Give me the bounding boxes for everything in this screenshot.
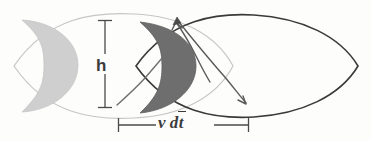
distance-label-v: v (158, 113, 166, 132)
diagram-canvas (0, 0, 371, 141)
distance-label: v dt (158, 114, 184, 131)
distance-label-d: d (170, 113, 179, 132)
distance-label-t: t (179, 113, 184, 132)
figure-container: h v dt (0, 0, 371, 141)
dark-crescent (140, 22, 196, 113)
light-crescent (22, 20, 78, 112)
height-label: h (96, 57, 106, 74)
